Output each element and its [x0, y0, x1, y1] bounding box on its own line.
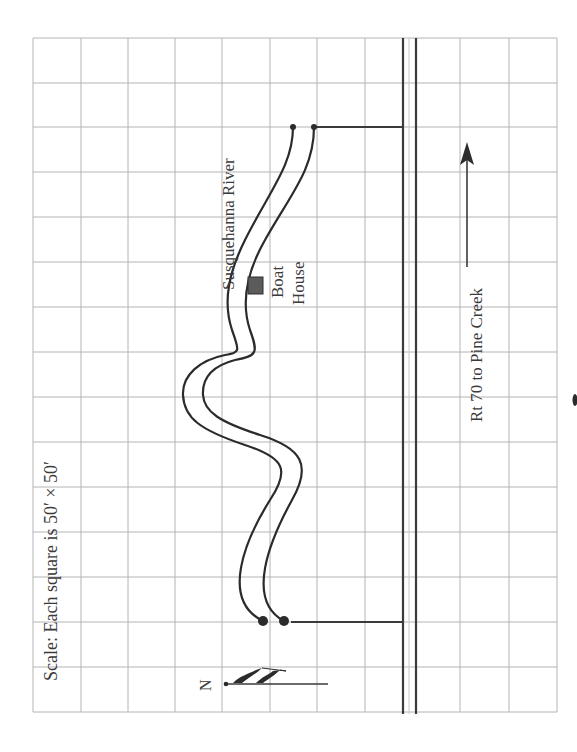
compass-north-label: N: [197, 679, 214, 691]
river-label: Susquehanna River: [219, 158, 238, 290]
river-endpoint-top-right: [311, 124, 317, 130]
river-endpoint-bottom-left: [258, 616, 268, 626]
stray-mark: [573, 394, 577, 406]
direction-arrow: [460, 142, 474, 267]
map-canvas: Susquehanna River Boat House Rt 70 to Pi…: [0, 0, 577, 752]
susquehanna-river: [183, 124, 317, 626]
north-flag-icon: [233, 668, 262, 683]
river-endpoint-bottom-right: [279, 616, 289, 626]
scale-label: Scale: Each square is 50′ × 50′: [41, 461, 61, 681]
boat-house-icon: [248, 277, 263, 294]
access-lines: [291, 127, 403, 622]
boat-house-label-line1: Boat: [268, 266, 287, 298]
north-compass: N: [197, 668, 328, 691]
river-endpoint-top-left: [290, 124, 296, 130]
road-label: Rt 70 to Pine Creek: [467, 287, 486, 422]
road-rt70: [403, 38, 416, 714]
boat-house-label-line2: House: [289, 262, 308, 305]
